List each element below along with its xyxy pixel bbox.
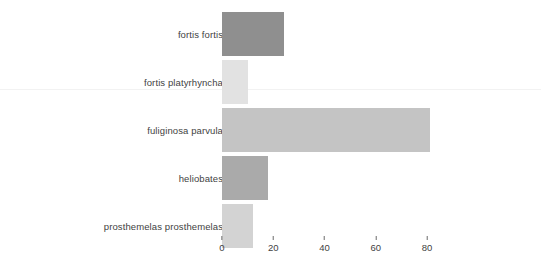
bar-row: fortis fortis [0,12,541,56]
x-axis-tick-mark [324,236,325,240]
bar-chart: fortis fortisfortis platyrhynchafuligino… [0,0,541,269]
y-axis-label: prosthemelas prosthemelas [104,221,223,232]
y-axis-label: fortis platyrhyncha [144,77,223,88]
bar-row: heliobates [0,156,541,200]
x-axis-tick-label: 80 [422,242,433,253]
y-axis-label: heliobates [179,173,223,184]
x-axis-tick-mark [426,236,427,240]
y-axis-label: fuliginosa parvula [147,125,223,136]
x-axis-tick-label: 40 [319,242,330,253]
x-axis-tick: 60 [370,236,381,253]
x-axis-tick-label: 0 [219,242,224,253]
bar[interactable] [222,60,248,104]
x-axis: 020406080 [0,236,541,269]
y-axis-label: fortis fortis [178,29,223,40]
x-axis-tick-mark [375,236,376,240]
bar-row: fuliginosa parvula [0,108,541,152]
bar[interactable] [222,108,430,152]
bar-row: fortis platyrhyncha [0,60,541,104]
x-axis-tick-mark [273,236,274,240]
x-axis-tick: 0 [219,236,224,253]
bar[interactable] [222,12,284,56]
x-axis-tick-label: 60 [370,242,381,253]
x-axis-tick-mark [221,236,222,240]
x-axis-tick: 40 [319,236,330,253]
x-axis-tick: 20 [268,236,279,253]
bar[interactable] [222,156,268,200]
x-axis-tick-label: 20 [268,242,279,253]
x-axis-tick: 80 [422,236,433,253]
